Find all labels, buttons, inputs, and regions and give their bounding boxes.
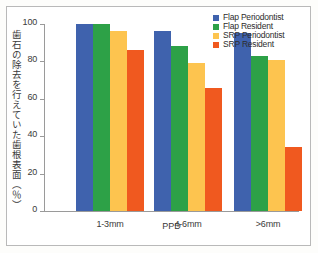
- bar: [188, 63, 205, 211]
- y-tick-label: 100: [7, 17, 37, 27]
- bar: [110, 31, 127, 211]
- legend-item[interactable]: SRP Resident: [213, 40, 311, 49]
- legend-swatch-icon: [213, 33, 219, 39]
- y-tick-label: 80: [7, 54, 37, 64]
- y-tick-mark: [40, 211, 44, 212]
- bar: [234, 33, 251, 211]
- chart-legend: Flap PeriodontistFlap ResidentSRP Period…: [213, 13, 311, 49]
- legend-swatch-icon: [213, 24, 219, 30]
- y-tick-mark: [40, 61, 44, 62]
- y-tick-mark: [40, 99, 44, 100]
- y-axis-line: [44, 24, 45, 212]
- y-tick-mark: [40, 136, 44, 137]
- bar-group: [76, 24, 144, 211]
- y-tick-label: 40: [7, 129, 37, 139]
- bar: [171, 46, 188, 211]
- plot-area: 100806040200 1-3mm4-6mm>6mm: [44, 24, 299, 212]
- y-tick-mark: [40, 174, 44, 175]
- bar-group: [234, 24, 302, 211]
- bar: [76, 24, 93, 211]
- x-axis-title: PPD: [44, 221, 299, 231]
- y-tick-label: 20: [7, 167, 37, 177]
- x-axis-line: [44, 211, 299, 212]
- bar: [285, 147, 302, 211]
- y-tick-label: 0: [7, 204, 37, 214]
- bar: [127, 50, 144, 211]
- bar: [251, 56, 268, 211]
- bar: [268, 60, 285, 211]
- bar: [205, 88, 222, 211]
- y-tick-label: 60: [7, 92, 37, 102]
- chart-figure: 歯石の除去を行えていた歯根表面（％） 100806040200 1-3mm4-6…: [0, 0, 318, 253]
- bar: [93, 24, 110, 211]
- legend-swatch-icon: [213, 42, 219, 48]
- bar-group: [154, 24, 222, 211]
- bar: [154, 31, 171, 211]
- legend-swatch-icon: [213, 15, 219, 21]
- legend-label: SRP Resident: [223, 40, 274, 49]
- y-tick-mark: [40, 24, 44, 25]
